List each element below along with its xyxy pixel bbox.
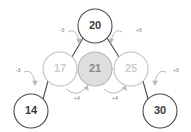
node-17[interactable]: 17 xyxy=(43,52,77,86)
edge-17-14 xyxy=(43,81,48,99)
delta-label-20-25: +5 xyxy=(136,27,142,33)
edge-20-25 xyxy=(107,38,119,57)
delta-label-25-21: +4 xyxy=(112,95,118,101)
edge-25-30 xyxy=(143,81,148,99)
node-20[interactable]: 20 xyxy=(78,9,112,43)
arrow-25-to-30 xyxy=(152,71,166,86)
arrow-25-to-21 xyxy=(104,85,127,93)
delta-label-20-17: -3 xyxy=(60,27,65,33)
node-25-label: 25 xyxy=(125,62,137,74)
graph-canvas: 20 17 21 25 14 30 xyxy=(0,0,191,132)
arrow-17-to-14 xyxy=(24,71,38,86)
node-30[interactable]: 30 xyxy=(143,94,177,128)
node-14-label: 14 xyxy=(25,104,38,116)
delta-label-17-21: +4 xyxy=(74,95,80,101)
node-20-label: 20 xyxy=(89,19,101,31)
node-21-label: 21 xyxy=(89,62,101,74)
node-group: 20 17 21 25 14 30 xyxy=(14,9,177,128)
node-21[interactable]: 21 xyxy=(78,52,112,86)
node-14[interactable]: 14 xyxy=(14,94,48,128)
number-graph-diagram: 20 17 21 25 14 30 xyxy=(0,0,191,132)
node-30-label: 30 xyxy=(154,104,166,116)
arrow-17-to-21 xyxy=(66,85,89,93)
node-17-label: 17 xyxy=(54,62,66,74)
node-25[interactable]: 25 xyxy=(114,52,148,86)
delta-label-17-14: -3 xyxy=(16,67,21,73)
delta-label-25-30: +5 xyxy=(173,67,179,73)
